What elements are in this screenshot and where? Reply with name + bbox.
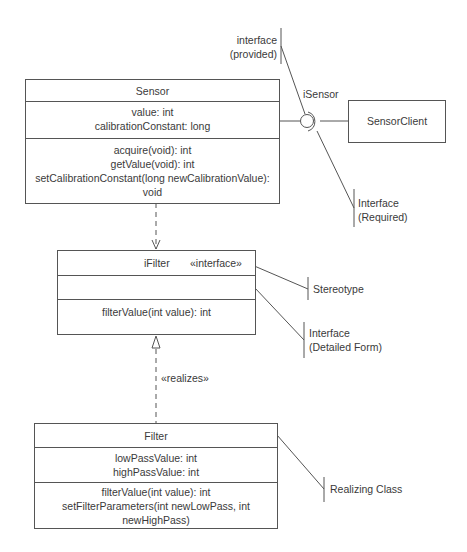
ifilter-operations: filterValue(int value): int [58,299,255,334]
isensor-interface-label: iSensor [303,87,339,101]
provided-callout-leader [281,46,305,114]
filter-attribute: lowPassValue: int [35,451,277,465]
filter-class[interactable]: Filter lowPassValue: int highPassValue: … [34,423,278,529]
annotation-text: (provided) [225,47,277,61]
sensor-operation: setCalibrationConstant(long newCalibrati… [26,171,279,185]
sensor-client-name: SensorClient [367,115,427,127]
sensor-operations: acquire(void): int getValue(void): int s… [26,138,279,203]
annotation-text: interface [225,33,277,47]
filter-operations: filterValue(int value): int setFilterPar… [35,482,277,528]
annotation-text: Interface [358,196,408,210]
detailed-form-annotation: Interface (Detailed Form) [309,326,382,354]
sensor-client-class[interactable]: SensorClient [348,100,446,143]
sensor-operation: acquire(void): int [26,143,279,157]
provided-interface-ball [301,115,314,128]
annotation-text: Interface [309,326,382,340]
filter-attribute: highPassValue: int [35,465,277,479]
sensor-attributes: value: int calibrationConstant: long [26,101,279,138]
realizes-label: «realizes» [161,371,209,385]
ifilter-operation: filterValue(int value): int [58,305,255,319]
filter-operation: setFilterParameters(int newLowPass, int [35,499,277,513]
sensor-operation: void [26,185,279,199]
stereotype-annotation: Stereotype [313,282,364,296]
sensor-class[interactable]: Sensor value: int calibrationConstant: l… [25,79,280,204]
annotation-text: (Required) [358,210,408,224]
realizing-class-callout-leader [277,435,324,489]
sensor-operation: getValue(void): int [26,157,279,171]
uml-diagram: Sensor value: int calibrationConstant: l… [0,0,467,552]
annotation-text: (Detailed Form) [309,340,382,354]
realization-arrowhead [152,336,160,348]
required-interface-annotation: Interface (Required) [358,196,408,224]
provided-interface-annotation: interface (provided) [225,33,277,61]
filter-class-name: Filter [35,429,277,443]
ifilter-interface[interactable]: iFilter «interface» filterValue(int valu… [57,250,256,335]
sensor-name-compartment: Sensor [26,80,279,101]
detailed-form-callout-leader [255,288,304,340]
filter-name-compartment: Filter [35,424,277,447]
sensor-class-name: Sensor [26,84,279,98]
filter-attributes: lowPassValue: int highPassValue: int [35,447,277,482]
sensor-attribute: value: int [26,105,279,119]
realizing-class-annotation: Realizing Class [330,482,402,496]
ifilter-attributes [58,275,255,299]
ifilter-name: iFilter [144,256,170,270]
sensor-attribute: calibrationConstant: long [26,119,279,133]
ifilter-name-compartment: iFilter «interface» [58,251,255,275]
ifilter-stereotype: «interface» [190,256,242,270]
filter-operation: filterValue(int value): int [35,485,277,499]
filter-operation: newHighPass) [35,513,277,527]
